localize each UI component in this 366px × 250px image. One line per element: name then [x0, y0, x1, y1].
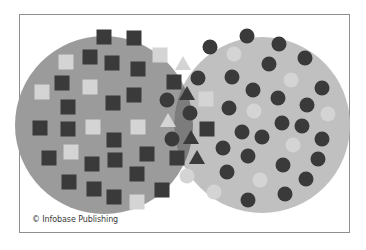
- square-icon: [127, 88, 142, 103]
- circle-icon: [246, 83, 261, 98]
- circle-icon: [220, 165, 235, 180]
- circle-icon: [160, 93, 175, 108]
- square-icon: [130, 167, 145, 182]
- circle-icon: [286, 138, 301, 153]
- square-icon: [55, 76, 70, 91]
- square-icon: [85, 157, 100, 172]
- square-icon: [42, 151, 57, 166]
- circle-icon: [295, 119, 310, 134]
- circle-icon: [227, 47, 242, 62]
- venn-diagram: [0, 0, 366, 250]
- circle-icon: [299, 172, 314, 187]
- circle-icon: [247, 104, 262, 119]
- circle-icon: [272, 37, 287, 52]
- square-icon: [153, 48, 168, 63]
- circle-icon: [315, 132, 330, 147]
- circle-icon: [321, 107, 336, 122]
- copyright-credit: © Infobase Publishing: [32, 215, 118, 224]
- square-icon: [108, 153, 123, 168]
- circle-icon: [275, 116, 290, 131]
- square-icon: [131, 120, 146, 135]
- square-icon: [155, 183, 170, 198]
- square-icon: [97, 30, 112, 45]
- triangle-icon: [175, 56, 191, 70]
- circle-icon: [183, 106, 198, 121]
- square-icon: [62, 175, 77, 190]
- circle-icon: [216, 141, 231, 156]
- circle-icon: [235, 125, 250, 140]
- square-icon: [199, 92, 214, 107]
- circle-icon: [222, 101, 237, 116]
- square-icon: [61, 100, 76, 115]
- square-icon: [107, 133, 122, 148]
- circle-icon: [276, 158, 291, 173]
- square-icon: [131, 62, 146, 77]
- square-icon: [170, 151, 185, 166]
- square-icon: [61, 122, 76, 137]
- circle-icon: [241, 193, 256, 208]
- circle-icon: [278, 187, 293, 202]
- circle-icon: [180, 169, 195, 184]
- square-icon: [107, 190, 122, 205]
- square-icon: [83, 80, 98, 95]
- square-icon: [140, 147, 155, 162]
- circle-icon: [241, 149, 256, 164]
- square-icon: [33, 121, 48, 136]
- square-icon: [105, 56, 120, 71]
- circle-icon: [262, 57, 277, 72]
- square-icon: [130, 195, 145, 210]
- circle-icon: [240, 29, 255, 44]
- circle-icon: [255, 130, 270, 145]
- square-icon: [59, 55, 74, 70]
- circle-icon: [253, 173, 268, 188]
- circle-icon: [298, 51, 313, 66]
- circle-icon: [315, 81, 330, 96]
- square-icon: [64, 145, 79, 160]
- square-icon: [35, 85, 50, 100]
- square-icon: [167, 75, 182, 90]
- square-icon: [106, 96, 121, 111]
- circle-icon: [311, 152, 326, 167]
- square-icon: [86, 120, 101, 135]
- square-icon: [127, 31, 142, 46]
- circle-icon: [271, 91, 286, 106]
- circle-icon: [191, 71, 206, 86]
- circle-icon: [300, 98, 315, 113]
- circle-icon: [165, 132, 180, 147]
- circle-icon: [284, 73, 299, 88]
- circle-icon: [225, 70, 240, 85]
- square-icon: [87, 182, 102, 197]
- circle-icon: [207, 185, 222, 200]
- square-icon: [83, 50, 98, 65]
- square-icon: [200, 122, 215, 137]
- circle-icon: [203, 40, 218, 55]
